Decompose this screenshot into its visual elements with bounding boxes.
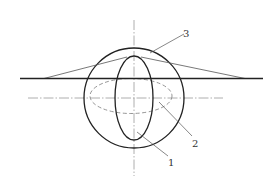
label-2: 2 bbox=[192, 138, 198, 149]
diagram-canvas: 3 2 1 bbox=[0, 0, 280, 181]
label-3: 3 bbox=[183, 28, 189, 39]
technical-diagram: 3 2 1 bbox=[0, 0, 280, 181]
leader-line-2 bbox=[159, 102, 192, 136]
right-tangent-line bbox=[141, 57, 245, 79]
leader-line-1 bbox=[137, 132, 168, 156]
label-1: 1 bbox=[168, 157, 174, 168]
leader-line-3 bbox=[150, 34, 184, 53]
left-tangent-line bbox=[44, 57, 127, 79]
dashed-hidden-ellipse bbox=[90, 79, 172, 114]
